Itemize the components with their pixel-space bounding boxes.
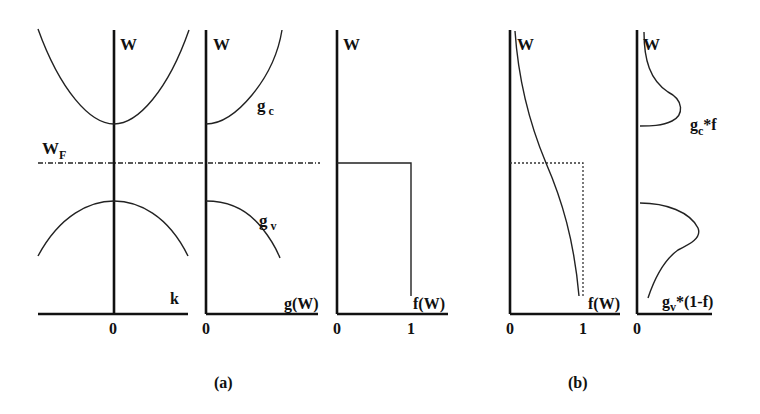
density-of-states-plot: W gc gv g(W) 0 bbox=[202, 30, 319, 337]
origin-tick: 0 bbox=[633, 320, 641, 337]
tick-zero: 0 bbox=[506, 320, 514, 337]
fermi-function-t0-plot: W f(W) 0 1 bbox=[333, 30, 448, 337]
origin-tick: 0 bbox=[202, 320, 210, 337]
fermi-level-label: WF bbox=[42, 139, 66, 162]
w-axis-label: W bbox=[213, 35, 230, 54]
caption-b: (b) bbox=[568, 374, 588, 392]
tick-one: 1 bbox=[579, 320, 587, 337]
hole-distribution-curve bbox=[640, 203, 699, 298]
caption-a: (a) bbox=[214, 374, 233, 392]
gc-f-label: gc*f bbox=[690, 116, 717, 138]
gv-1-f-label: gv*(1-f) bbox=[662, 293, 713, 314]
f-axis-label: f(W) bbox=[588, 295, 620, 313]
fermi-function-t-plot: W f(W) 0 1 bbox=[506, 30, 620, 337]
w-axis-label: W bbox=[517, 35, 534, 54]
semiconductor-band-diagram: W k 0 WF W gc gv g(W) 0 W f(W) 0 1 W f(W… bbox=[0, 0, 760, 414]
tick-one: 1 bbox=[407, 320, 415, 337]
origin-tick: 0 bbox=[109, 320, 117, 337]
gc-label: gc bbox=[257, 96, 275, 118]
band-structure-plot: W k 0 WF bbox=[38, 29, 320, 337]
w-axis-label: W bbox=[643, 35, 660, 54]
w-axis-label: W bbox=[120, 35, 137, 54]
k-axis-label: k bbox=[170, 290, 179, 307]
w-axis-label: W bbox=[343, 35, 360, 54]
f-axis-label: f(W) bbox=[413, 295, 445, 313]
g-axis-label: g(W) bbox=[284, 295, 319, 313]
gv-label: gv bbox=[259, 211, 277, 233]
step-function-curve bbox=[337, 163, 411, 296]
valence-dos-curve bbox=[206, 201, 280, 258]
step-reference-dotted bbox=[510, 163, 583, 296]
tick-zero: 0 bbox=[333, 320, 341, 337]
carrier-distribution-plot: W gc*f gv*(1-f) 0 bbox=[633, 30, 717, 337]
